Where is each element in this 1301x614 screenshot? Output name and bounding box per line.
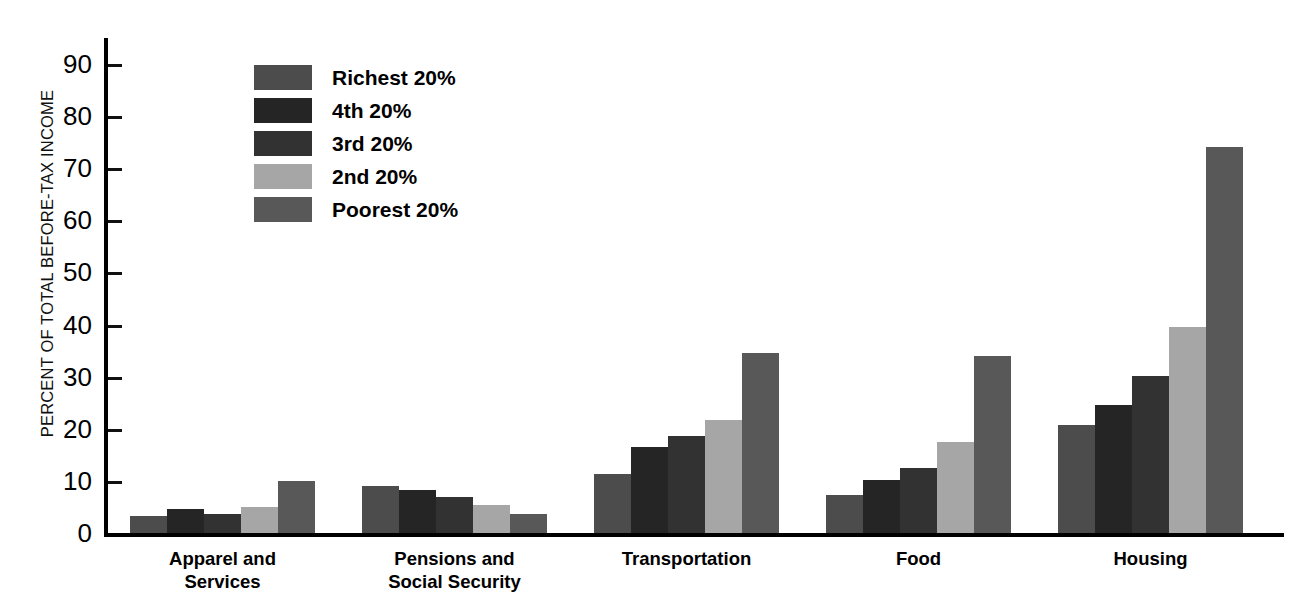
legend-swatch bbox=[254, 131, 312, 156]
bar bbox=[399, 490, 436, 533]
y-tick-label: 60 bbox=[63, 207, 92, 233]
bar-chart: PERCENT OF TOTAL BEFORE-TAX INCOME 01020… bbox=[0, 0, 1301, 614]
bar bbox=[900, 468, 937, 533]
legend-swatch bbox=[254, 197, 312, 222]
bar-group bbox=[594, 38, 779, 533]
bar bbox=[863, 480, 900, 533]
bar bbox=[130, 516, 167, 533]
legend-label: 2nd 20% bbox=[332, 165, 417, 189]
legend-swatch bbox=[254, 98, 312, 123]
bar bbox=[705, 420, 742, 533]
bar bbox=[204, 514, 241, 533]
x-axis-label: Transportation bbox=[567, 548, 807, 571]
x-axis-label: Food bbox=[799, 548, 1039, 571]
x-axis-label: Pensions and Social Security bbox=[335, 548, 575, 594]
bar bbox=[594, 474, 631, 533]
legend-item: 2nd 20% bbox=[254, 160, 458, 193]
legend-item: 4th 20% bbox=[254, 94, 458, 127]
legend-item: Richest 20% bbox=[254, 61, 458, 94]
bar bbox=[1132, 376, 1169, 533]
bar bbox=[1206, 147, 1243, 533]
legend-item: Poorest 20% bbox=[254, 193, 458, 226]
bar bbox=[510, 514, 547, 533]
legend-label: Poorest 20% bbox=[332, 198, 458, 222]
y-tick-label: 40 bbox=[63, 312, 92, 338]
bar bbox=[1095, 405, 1132, 533]
y-tick-label: 50 bbox=[63, 259, 92, 285]
bar bbox=[826, 495, 863, 533]
legend-label: Richest 20% bbox=[332, 66, 456, 90]
legend-swatch bbox=[254, 65, 312, 90]
legend: Richest 20%4th 20%3rd 20%2nd 20%Poorest … bbox=[254, 61, 458, 226]
y-axis-title: PERCENT OF TOTAL BEFORE-TAX INCOME bbox=[38, 34, 57, 494]
legend-label: 4th 20% bbox=[332, 99, 411, 123]
bar bbox=[1169, 327, 1206, 533]
bar bbox=[742, 353, 779, 533]
legend-label: 3rd 20% bbox=[332, 132, 413, 156]
y-tick-label: 0 bbox=[78, 520, 92, 546]
bar bbox=[974, 356, 1011, 533]
x-axis-label: Housing bbox=[1031, 548, 1271, 571]
bar bbox=[362, 486, 399, 533]
x-axis-line bbox=[104, 533, 1284, 537]
y-tick-label: 80 bbox=[63, 103, 92, 129]
bar bbox=[668, 436, 705, 533]
bar bbox=[631, 447, 668, 533]
y-tick-label: 10 bbox=[63, 468, 92, 494]
y-tick-label: 90 bbox=[63, 51, 92, 77]
bar bbox=[436, 497, 473, 533]
bar bbox=[937, 442, 974, 533]
bar bbox=[241, 507, 278, 533]
y-tick-label: 30 bbox=[63, 364, 92, 390]
legend-swatch bbox=[254, 164, 312, 189]
bar bbox=[167, 509, 204, 533]
bar bbox=[1058, 425, 1095, 533]
bar bbox=[473, 505, 510, 533]
legend-item: 3rd 20% bbox=[254, 127, 458, 160]
bar-group bbox=[826, 38, 1011, 533]
y-tick-label: 70 bbox=[63, 155, 92, 181]
bar bbox=[278, 481, 315, 533]
x-axis-label: Apparel and Services bbox=[103, 548, 343, 594]
bar-group bbox=[1058, 38, 1243, 533]
y-tick-label: 20 bbox=[63, 416, 92, 442]
